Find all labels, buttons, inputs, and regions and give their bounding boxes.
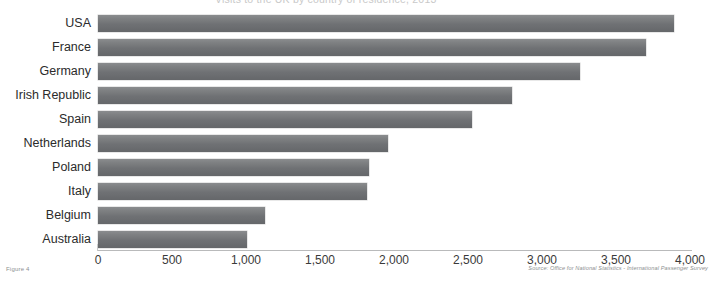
bar-track [98, 159, 716, 176]
bar [98, 183, 367, 200]
bar-category-label: Poland [0, 159, 91, 175]
bar-track [98, 87, 716, 104]
bar-category-label: Germany [0, 63, 91, 79]
bar-row: Irish Republic [0, 84, 716, 108]
x-axis-line [97, 250, 692, 251]
bar-row: Spain [0, 108, 716, 132]
x-tick-label: 500 [132, 253, 212, 267]
x-axis-origin-tick [97, 244, 98, 251]
bar-category-label: Spain [0, 111, 91, 127]
x-tick-label: 2,500 [428, 253, 508, 267]
bar-category-label: Italy [0, 183, 91, 199]
bar-category-label: USA [0, 15, 91, 31]
bar [98, 111, 472, 128]
bar-row: Italy [0, 180, 716, 204]
source-note: Source: Office for National Statistics -… [528, 265, 708, 271]
bar-category-label: Australia [0, 231, 91, 247]
bar-chart-plot: USAFranceGermanyIrish RepublicSpainNethe… [0, 12, 716, 252]
bar-track [98, 111, 716, 128]
bar [98, 39, 646, 56]
bar-category-label: Belgium [0, 207, 91, 223]
bar-track [98, 231, 716, 248]
bar-track [98, 15, 716, 32]
x-tick-label: 1,000 [206, 253, 286, 267]
bar-track [98, 183, 716, 200]
x-tick-label: 1,500 [280, 253, 360, 267]
bar [98, 15, 674, 32]
bar-row: Australia [0, 228, 716, 252]
bar-category-label: Netherlands [0, 135, 91, 151]
bar-row: France [0, 36, 716, 60]
bar-track [98, 207, 716, 224]
bar [98, 63, 580, 80]
bar [98, 207, 265, 224]
figure-caption: Figure 4 [6, 266, 30, 272]
figure-container: Visits to the UK by country of residence… [0, 0, 716, 288]
bar-category-label: France [0, 39, 91, 55]
chart-title: Visits to the UK by country of residence… [215, 0, 436, 5]
bar [98, 231, 247, 248]
bar-row: Germany [0, 60, 716, 84]
bar-row: USA [0, 12, 716, 36]
bar-category-label: Irish Republic [0, 87, 91, 103]
clipped-title-strip: Visits to the UK by country of residence… [0, 0, 716, 8]
bar-row: Belgium [0, 204, 716, 228]
x-tick-label: 2,000 [354, 253, 434, 267]
bar [98, 135, 388, 152]
bar [98, 87, 512, 104]
bar-row: Poland [0, 156, 716, 180]
bar-track [98, 135, 716, 152]
bar-row: Netherlands [0, 132, 716, 156]
bar [98, 159, 369, 176]
bar-track [98, 39, 716, 56]
x-tick-label: 0 [58, 253, 138, 267]
bar-rows: USAFranceGermanyIrish RepublicSpainNethe… [0, 12, 716, 252]
bar-track [98, 63, 716, 80]
